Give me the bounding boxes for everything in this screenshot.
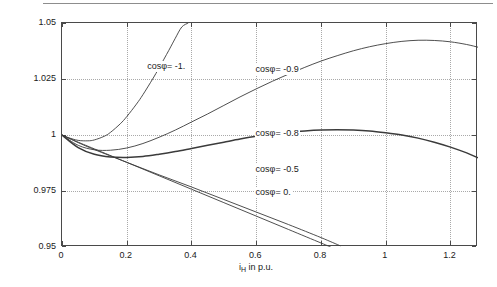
page-top-rule (43, 3, 493, 4)
y-tick-label: 1.05 (20, 17, 56, 27)
x-tick-label: 0.4 (184, 250, 197, 260)
curve-label-cos-0.: cosφ= 0. (255, 187, 292, 198)
y-tick-label: 0.975 (20, 185, 56, 195)
curve-cos--1. (62, 23, 188, 141)
x-tick-label: 0 (58, 250, 63, 260)
plot-area: cosφ= -1.cosφ= -0.9cosφ= -0.8cosφ= -0.5c… (61, 22, 477, 246)
x-tick-label: 0.6 (249, 250, 262, 260)
x-tick-label: 1 (382, 250, 387, 260)
figure-canvas: cosφ= -1.cosφ= -0.9cosφ= -0.8cosφ= -0.5c… (0, 0, 497, 287)
y-tick-label: 1 (20, 129, 56, 139)
curve-label-cos--0.8: cosφ= -0.8 (255, 128, 300, 139)
x-axis-title: iH in p.u. (239, 262, 273, 273)
x-tick-label: 1.2 (443, 250, 456, 260)
curve-label-cos--1.: cosφ= -1. (146, 61, 186, 72)
curve-label-cos--0.9: cosφ= -0.9 (255, 64, 300, 75)
curve-label-cos--0.5: cosφ= -0.5 (255, 164, 300, 175)
x-tick-label: 0.2 (119, 250, 132, 260)
curve-cos--0.5 (62, 135, 340, 246)
y-tick-label: 0.95 (20, 241, 56, 251)
y-tick-label: 1.025 (20, 73, 56, 83)
x-tick-label: 0.8 (314, 250, 327, 260)
